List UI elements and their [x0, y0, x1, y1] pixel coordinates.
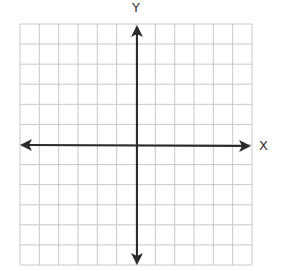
x-axis-label: X [259, 139, 268, 152]
coordinate-plane [0, 0, 285, 271]
x-axis [28, 145, 243, 146]
y-axis-label: Y [132, 1, 140, 14]
